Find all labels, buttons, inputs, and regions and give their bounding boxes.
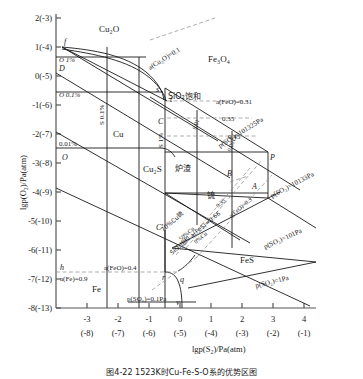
point-label-P: P bbox=[269, 153, 275, 162]
region-label-cu: Cu bbox=[113, 129, 124, 139]
axes bbox=[56, 14, 316, 308]
point-label-q: q bbox=[180, 275, 184, 284]
line-label-p-1: p(SO₂)=1Pa bbox=[255, 274, 291, 290]
y-axis-title: lgp(O₂)/Pa(atm) bbox=[18, 155, 28, 210]
line-label-o-1pct: O 1% bbox=[59, 56, 75, 64]
point-label-O-lower: O bbox=[62, 153, 68, 162]
line-label-001pct: 0.01% bbox=[59, 140, 77, 148]
y-tick-label: 0(-5) bbox=[35, 71, 52, 81]
x-tick-label-alt: (-3) bbox=[236, 328, 249, 338]
line-label-p-01: p(SO₂)=0.1Pa bbox=[127, 295, 167, 303]
x-tick-label: 0 bbox=[178, 314, 182, 324]
region-label-fes: FeS bbox=[240, 255, 254, 265]
x-tick-label-alt: (-4) bbox=[205, 328, 218, 338]
region-label-matte: 锍 bbox=[207, 190, 215, 200]
region-label-fe3o4: Fe₃O₄ bbox=[208, 54, 230, 64]
point-label-A: A bbox=[251, 182, 257, 191]
y-tick-label: -4(-9) bbox=[32, 187, 52, 197]
x-tick-label: 4 bbox=[302, 314, 307, 324]
x-tick-label: -3 bbox=[83, 314, 90, 324]
region-label-fe: Fe bbox=[92, 284, 101, 294]
line-label-o-01pct: O 0.1% bbox=[59, 91, 81, 99]
x-tick-label-alt: (-6) bbox=[143, 328, 156, 338]
region-label-slag: 炉渣 bbox=[175, 163, 191, 173]
y-tick-label: -6(-11) bbox=[28, 245, 52, 255]
x-tick-label: 1 bbox=[209, 314, 213, 324]
x-tick-label-alt: (-2) bbox=[267, 328, 280, 338]
y-tick-label: 1(-4) bbox=[35, 42, 52, 52]
point-label-f: f bbox=[64, 37, 68, 46]
x-tick-label-alt: (-5) bbox=[174, 328, 187, 338]
point-label-s: s bbox=[156, 85, 159, 94]
y-tick-label: -3(-8) bbox=[32, 158, 52, 168]
x-tick-label-alt: (-8) bbox=[81, 328, 94, 338]
x-tick-label-alt: (-1) bbox=[298, 328, 311, 338]
x-tick-label-alt: (-7) bbox=[112, 328, 125, 338]
line-label-a-feo-04: a(FeO)=0.4 bbox=[104, 264, 137, 272]
diagram-labels: Cu₂O Cu Cu₂S Fe₃O₄ FeS Fe 炉渣 锍 f D O 1% … bbox=[18, 24, 316, 354]
y-tick-label: -8(-13) bbox=[28, 303, 52, 313]
line-label-a-feo-031: a(FeO)=0.31 bbox=[216, 98, 253, 106]
point-label-C: C bbox=[158, 117, 164, 126]
line-label-cu70: 70%Cu锍 bbox=[159, 210, 185, 234]
y-tick-label: -2(-7) bbox=[32, 129, 52, 139]
line-label-035b: 0.35 bbox=[215, 197, 227, 208]
x-axis-title: lgp(S₂)/Pa(atm) bbox=[192, 344, 246, 354]
y-tick-label: -5(-10) bbox=[28, 216, 52, 226]
line-label-p-101: p(SO₂)=101Pa bbox=[263, 226, 305, 250]
point-label-D: D bbox=[58, 64, 65, 73]
phase-diagram-figure: .ln{stroke:#1a1a1a;stroke-width:0.9;fill… bbox=[0, 0, 363, 379]
region-label-cu2o: Cu₂O bbox=[99, 24, 120, 34]
x-tick-label: 3 bbox=[271, 314, 275, 324]
line-label-001: 0.01 bbox=[191, 118, 200, 130]
figure-caption: 图4-22 1523K时Cu-Fe-S-O系的优势区图 bbox=[0, 366, 363, 377]
x-tick-label: -2 bbox=[114, 314, 121, 324]
phase-boundaries bbox=[56, 47, 316, 308]
line-label-sio2-sat: SiO₂饱和 bbox=[168, 91, 201, 101]
line-label-a-cu2o: a(Cu₂O)=0.1 bbox=[147, 46, 182, 72]
y-tick-label: -7(-12) bbox=[28, 274, 52, 284]
point-label-B: B bbox=[227, 169, 232, 178]
line-label-p-10133: p(SO₂)=10133Pa bbox=[269, 170, 316, 200]
y-tick-label: 2(-3) bbox=[35, 13, 52, 23]
region-label-cu2s: Cu₂S bbox=[143, 164, 162, 174]
line-label-035: 0.35 bbox=[222, 115, 235, 123]
point-label-h: h bbox=[60, 263, 64, 272]
line-label-a-fe-09: a(Fe)=0.9 bbox=[60, 275, 88, 283]
line-label-s-1pct: S 1% bbox=[157, 133, 165, 148]
line-label-s-01pct: S 0.1% bbox=[98, 105, 106, 125]
point-label-v: v bbox=[176, 298, 180, 307]
x-tick-label: 2 bbox=[240, 314, 244, 324]
y-tick-label: -1(-6) bbox=[32, 100, 52, 110]
diagram-canvas: .ln{stroke:#1a1a1a;stroke-width:0.9;fill… bbox=[0, 0, 363, 379]
x-tick-label: -1 bbox=[145, 314, 152, 324]
